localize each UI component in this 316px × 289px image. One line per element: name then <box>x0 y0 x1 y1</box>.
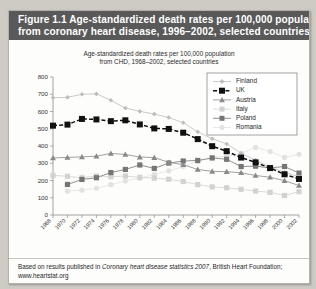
data-point <box>152 166 157 171</box>
x-axis-tick-label: 2000 <box>271 217 284 230</box>
legend-marker <box>220 116 225 121</box>
x-axis-tick-label: 1968 <box>39 217 52 230</box>
data-point <box>109 98 114 103</box>
data-point <box>282 164 287 169</box>
chart-title: Age-standardized death rates per 100,000… <box>9 50 309 57</box>
legend-label: Poland <box>236 114 256 121</box>
legend-marker <box>220 125 225 130</box>
chart-subtitle: from CHD, 1968–2002, selected countries <box>9 58 309 65</box>
data-point <box>79 188 84 193</box>
data-point <box>209 143 215 149</box>
data-point <box>108 150 114 155</box>
data-point <box>152 112 157 117</box>
data-point <box>122 117 128 123</box>
legend-label: Finland <box>236 77 257 84</box>
data-point <box>210 136 215 141</box>
data-point <box>151 125 157 131</box>
legend-marker <box>220 107 225 112</box>
data-point <box>108 170 113 175</box>
data-point <box>267 190 272 195</box>
x-axis-tick-label: 2002 <box>285 217 298 230</box>
x-axis-tick-label: 1974 <box>83 217 96 230</box>
x-axis-tick-label: 1984 <box>155 217 168 230</box>
data-point <box>267 165 273 171</box>
figure-title-bar: Figure 1.1 Age-standardized death rates … <box>9 11 309 40</box>
data-point <box>64 122 70 128</box>
data-point <box>224 142 229 147</box>
y-axis-tick-label: 200 <box>38 177 49 184</box>
data-point <box>282 193 287 198</box>
source-url: www.heartstat.org <box>18 272 68 279</box>
x-axis-tick-label: 1990 <box>198 217 211 230</box>
source-suffix: , British Heart Foundation; <box>209 263 282 270</box>
series-austria <box>50 150 302 187</box>
figure-title-line2: from coronary heart disease, 1996–2002, … <box>18 26 310 37</box>
data-point <box>51 95 56 100</box>
data-point <box>50 173 55 178</box>
data-point <box>253 145 258 150</box>
data-point <box>181 179 186 184</box>
x-axis-tick-label: 1980 <box>126 217 139 230</box>
data-point <box>93 116 99 122</box>
legend-label: Italy <box>236 105 249 113</box>
data-point <box>166 177 171 182</box>
data-point <box>239 164 244 169</box>
x-axis-tick-label: 1996 <box>242 217 255 230</box>
data-point <box>253 188 258 193</box>
data-point <box>94 186 99 191</box>
data-point <box>166 168 171 173</box>
data-point <box>195 130 200 135</box>
x-axis-tick-label: 1978 <box>112 217 125 230</box>
legend-label: UK <box>236 86 246 93</box>
data-point <box>180 130 186 136</box>
data-point <box>195 182 200 187</box>
data-point <box>65 95 70 100</box>
x-axis-tick-label: 1970 <box>54 217 67 230</box>
data-point <box>79 177 84 182</box>
line-chart: 0100200300400500600700800196819701972197… <box>9 67 309 257</box>
y-axis-tick-label: 0 <box>45 211 49 218</box>
y-axis-tick-label: 800 <box>38 73 49 80</box>
y-axis-tick-label: 400 <box>38 142 49 149</box>
data-point <box>210 184 215 189</box>
legend-marker <box>219 88 225 94</box>
figure-title-line1: Figure 1.1 Age-standardized death rates … <box>18 14 310 25</box>
data-point <box>224 148 230 154</box>
data-point <box>123 178 128 183</box>
data-point <box>253 159 259 165</box>
data-point <box>296 152 301 157</box>
screenshot-page: Figure 1.1 Age-standardized death rates … <box>0 0 316 289</box>
data-point <box>138 109 143 114</box>
y-axis-tick-label: 700 <box>38 90 49 97</box>
x-axis-tick-label: 1976 <box>97 217 110 230</box>
data-point <box>166 126 172 132</box>
data-point <box>123 106 128 111</box>
data-point <box>108 182 113 187</box>
x-axis-tick-label: 1994 <box>227 217 240 230</box>
series-romania <box>65 145 302 194</box>
data-point <box>181 120 186 125</box>
data-point <box>238 155 244 161</box>
data-point <box>137 162 142 167</box>
data-point <box>296 176 302 182</box>
data-point <box>296 189 301 194</box>
figure-source-note: Based on results published in Coronary h… <box>9 258 309 284</box>
data-point <box>137 121 143 127</box>
data-point <box>50 123 56 129</box>
data-point <box>152 175 157 180</box>
data-point <box>94 175 99 180</box>
data-point <box>224 157 229 162</box>
x-axis-tick-label: 1998 <box>256 217 269 230</box>
data-point <box>137 175 142 180</box>
figure-card: Figure 1.1 Age-standardized death rates … <box>8 10 310 284</box>
chart-plot-area: 0100200300400500600700800196819701972197… <box>9 67 309 257</box>
data-point <box>65 189 70 194</box>
data-point <box>123 167 128 172</box>
data-point <box>79 116 85 122</box>
y-axis-tick-label: 600 <box>38 108 49 115</box>
data-point <box>239 187 244 192</box>
x-axis-tick-label: 1972 <box>68 217 81 230</box>
x-axis-tick-label: 1982 <box>140 217 153 230</box>
legend-label: Austria <box>236 96 256 103</box>
source-publication: Coronary heart disease statistics 2007 <box>102 263 209 270</box>
